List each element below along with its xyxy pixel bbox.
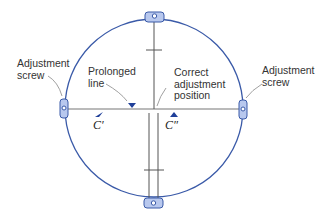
c-double-prime-label: C″ (165, 120, 178, 132)
reticle-diagram (0, 0, 335, 214)
c-prime-marker (95, 112, 103, 117)
correct-position-label: Correctadjustmentposition (174, 67, 225, 102)
correct-position-leader (157, 88, 166, 106)
top-screw (145, 12, 164, 22)
right-screw (239, 100, 247, 119)
right-screw-leader (246, 84, 262, 98)
left-screw (60, 99, 68, 118)
c-double-prime-marker (170, 112, 178, 117)
prolonged-line-label: Prolongedline (88, 66, 136, 89)
right-screw-label: Adjustmentscrew (262, 65, 315, 88)
left-screw-label: Adjustmentscrew (17, 58, 70, 81)
bottom-screw (144, 198, 163, 208)
prolonged-line-marker (128, 103, 136, 108)
c-prime-label: C′ (93, 120, 104, 132)
